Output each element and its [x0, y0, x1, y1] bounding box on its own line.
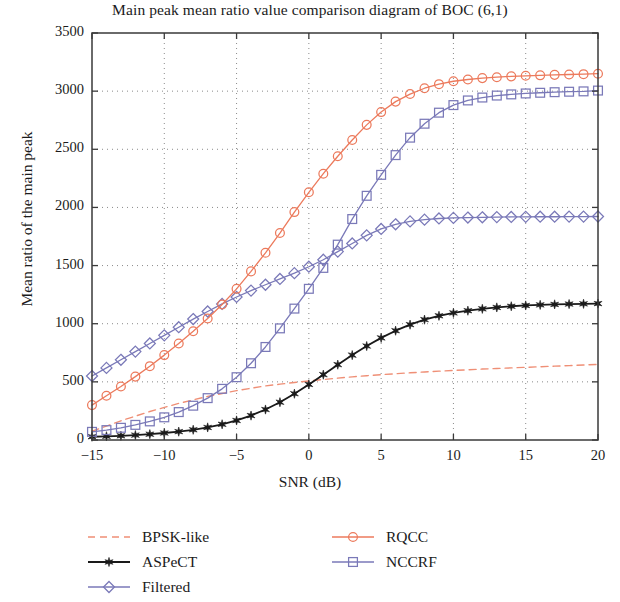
legend-column-right: RQCCNCCRF	[330, 524, 437, 574]
legend-label: Filtered	[142, 578, 190, 596]
x-tick-label: 20	[574, 447, 620, 464]
y-tick-label: 500	[30, 372, 84, 389]
legend-swatch-none-icon	[86, 528, 132, 546]
series-rqcc	[88, 69, 603, 409]
chart-legend: BPSK-likeASPeCTFiltered RQCCNCCRF	[86, 524, 556, 600]
x-tick-label: 5	[357, 447, 405, 464]
legend-swatch-square-icon	[330, 553, 376, 571]
series-aspect	[88, 299, 602, 441]
legend-item-filtered[interactable]: Filtered	[86, 574, 209, 599]
data-series-layer	[87, 69, 604, 441]
y-tick-label: 3000	[30, 81, 84, 98]
legend-label: NCCRF	[386, 553, 437, 571]
legend-swatch-diamond-icon	[86, 578, 132, 596]
legend-item-rqcc[interactable]: RQCC	[330, 524, 437, 549]
legend-swatch-circle-icon	[330, 528, 376, 546]
chart-figure: Main peak mean ratio value comparison di…	[0, 0, 620, 602]
x-tick-label: −5	[213, 447, 261, 464]
legend-label: RQCC	[386, 528, 428, 546]
x-tick-label: 0	[285, 447, 333, 464]
y-tick-label: 2500	[30, 139, 84, 156]
legend-label: BPSK-like	[142, 528, 209, 546]
plot-area	[0, 0, 620, 602]
legend-item-nccrf[interactable]: NCCRF	[330, 549, 437, 574]
y-tick-label: 3500	[30, 23, 84, 40]
x-tick-label: 15	[502, 447, 550, 464]
legend-column-left: BPSK-likeASPeCTFiltered	[86, 524, 209, 599]
y-tick-label: 2000	[30, 197, 84, 214]
legend-label: ASPeCT	[142, 553, 197, 571]
legend-item-bpsk-like[interactable]: BPSK-like	[86, 524, 209, 549]
x-tick-label: 10	[429, 447, 477, 464]
y-tick-label: 0	[30, 430, 84, 447]
legend-swatch-star-icon	[86, 553, 132, 571]
y-tick-label: 1500	[30, 256, 84, 273]
series-nccrf	[88, 86, 603, 436]
y-axis-label: Mean ratio of the main peak	[18, 99, 36, 339]
x-axis-label: SNR (dB)	[0, 473, 620, 491]
y-tick-label: 1000	[30, 314, 84, 331]
x-tick-label: −10	[140, 447, 188, 464]
legend-item-aspect[interactable]: ASPeCT	[86, 549, 209, 574]
x-tick-label: −15	[68, 447, 116, 464]
